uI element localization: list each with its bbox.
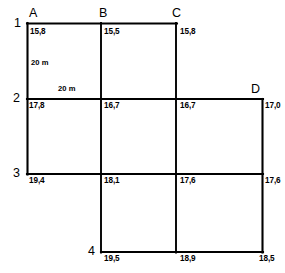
elevation-value-b2: 16,7: [104, 102, 120, 110]
elevation-value-a3: 19,4: [29, 177, 45, 185]
elevation-value-c4: 18,9: [180, 255, 196, 263]
elevation-value-c3: 17,6: [180, 177, 196, 185]
row-label-3: 3: [13, 167, 20, 180]
elevation-value-d2: 17,0: [265, 102, 281, 110]
elevation-value-b4: 19,5: [104, 255, 120, 263]
column-label-b: B: [99, 7, 107, 20]
column-label-a: A: [29, 7, 37, 20]
grid-linework: [0, 0, 285, 273]
survey-grid-diagram: A B C D 1 2 3 4 15,8 15,5 15,8 17,8 16,7…: [0, 0, 285, 273]
row-label-2: 2: [13, 92, 20, 105]
row-label-1: 1: [14, 17, 21, 30]
elevation-value-c1: 15,8: [180, 28, 196, 36]
elevation-value-a2: 17,8: [29, 102, 45, 110]
elevation-value-b1: 15,5: [104, 28, 120, 36]
elevation-value-b3: 18,1: [104, 177, 120, 185]
elevation-value-d3: 17,6: [265, 177, 281, 185]
column-label-d: D: [251, 83, 260, 96]
elevation-value-d4: 18,5: [259, 255, 275, 263]
elevation-value-a1: 15,8: [30, 28, 46, 36]
elevation-value-c2: 16,7: [180, 102, 196, 110]
dimension-label-vertical: 20 m: [31, 59, 49, 67]
dimension-label-horizontal: 20 m: [58, 85, 76, 93]
row-label-4: 4: [88, 245, 95, 258]
column-label-c: C: [172, 7, 181, 20]
